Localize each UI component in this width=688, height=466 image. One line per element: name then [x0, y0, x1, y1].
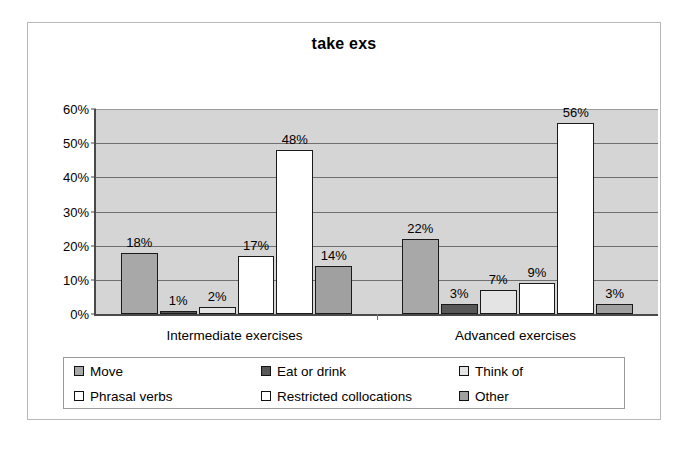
legend-label: Phrasal verbs [90, 389, 173, 404]
bar-slot: 3% [440, 109, 479, 314]
legend-item[interactable]: Think of [459, 364, 523, 379]
legend-item[interactable]: Move [74, 364, 123, 379]
bar-value-label: 2% [208, 289, 227, 304]
bar-value-label: 1% [169, 293, 188, 308]
legend-item[interactable]: Eat or drink [261, 364, 346, 379]
legend-label: Restricted collocations [277, 389, 412, 404]
bar-slot: 48% [275, 109, 314, 314]
bar-value-label: 7% [489, 272, 508, 287]
legend-item[interactable]: Phrasal verbs [74, 389, 173, 404]
legend-label: Move [90, 364, 123, 379]
bar-value-label: 17% [243, 238, 269, 253]
category-label: Intermediate exercises [167, 328, 303, 343]
category-label: Advanced exercises [455, 328, 576, 343]
bar-value-label: 14% [321, 248, 347, 263]
bar[interactable] [519, 283, 556, 314]
bar-value-label: 56% [563, 105, 589, 120]
bar[interactable] [238, 256, 275, 314]
bar-value-label: 3% [450, 286, 469, 301]
plot-area: 0%10%20%30%40%50%60%18%1%2%17%48%14%22%3… [94, 109, 658, 316]
bar-slot: 2% [198, 109, 237, 314]
bar-slot: 18% [120, 109, 159, 314]
y-axis-tick-label: 0% [70, 307, 89, 322]
category-separator-tick [377, 314, 378, 320]
y-axis-tick-label: 30% [63, 204, 89, 219]
bar-value-label: 3% [605, 286, 624, 301]
legend-item[interactable]: Other [459, 389, 509, 404]
bar[interactable] [315, 266, 352, 314]
y-axis-tick-label: 40% [63, 170, 89, 185]
legend-item[interactable]: Restricted collocations [261, 389, 412, 404]
legend-swatch-icon [261, 391, 271, 401]
y-axis-tick-label: 20% [63, 238, 89, 253]
bar-value-label: 22% [407, 221, 433, 236]
bar-slot: 3% [595, 109, 634, 314]
bar-value-label: 18% [126, 235, 152, 250]
plot-inner: 0%10%20%30%40%50%60%18%1%2%17%48%14%22%3… [96, 109, 658, 314]
bar[interactable] [441, 304, 478, 314]
chart-frame: take exs 0%10%20%30%40%50%60%18%1%2%17%4… [27, 22, 661, 420]
bar-slot: 14% [314, 109, 353, 314]
legend-label: Think of [475, 364, 523, 379]
bar-slot: 17% [237, 109, 276, 314]
bar-slot: 7% [479, 109, 518, 314]
bar[interactable] [596, 304, 633, 314]
legend-swatch-icon [74, 366, 84, 376]
chart-legend: MoveEat or drinkThink ofPhrasal verbsRes… [63, 357, 625, 409]
bar-slot: 1% [159, 109, 198, 314]
legend-row: MoveEat or drinkThink of [64, 358, 624, 384]
bar-slot: 56% [556, 109, 595, 314]
bar[interactable] [121, 253, 158, 315]
legend-row: Phrasal verbsRestricted collocationsOthe… [64, 383, 624, 409]
y-axis-tick-label: 50% [63, 136, 89, 151]
bar[interactable] [276, 150, 313, 314]
bar-group: 18%1%2%17%48%14% [96, 109, 377, 314]
legend-swatch-icon [459, 391, 469, 401]
legend-swatch-icon [261, 366, 271, 376]
bar[interactable] [402, 239, 439, 314]
chart-title: take exs [28, 35, 660, 53]
bar-slot: 22% [401, 109, 440, 314]
bar[interactable] [199, 307, 236, 314]
legend-label: Other [475, 389, 509, 404]
y-axis-tick-label: 10% [63, 272, 89, 287]
legend-label: Eat or drink [277, 364, 346, 379]
bar[interactable] [557, 123, 594, 314]
bar[interactable] [480, 290, 517, 314]
bar-group: 22%3%7%9%56%3% [377, 109, 658, 314]
legend-swatch-icon [74, 391, 84, 401]
bar-slot: 9% [518, 109, 557, 314]
y-axis-tick-label: 60% [63, 102, 89, 117]
bar-value-label: 9% [528, 265, 547, 280]
bar[interactable] [160, 311, 197, 314]
bar-value-label: 48% [282, 132, 308, 147]
legend-swatch-icon [459, 366, 469, 376]
